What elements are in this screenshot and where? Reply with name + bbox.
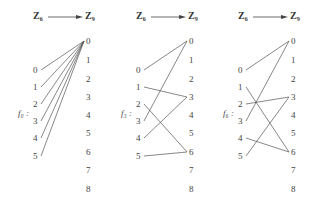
mapping-line [144,87,187,97]
mapping-line [41,41,84,121]
function-label: f₀ : [18,108,29,118]
domain-element: 4 [238,133,243,143]
codomain-element: 8 [86,184,91,194]
mapping-line [246,97,289,104]
codomain-element: 0 [291,36,296,46]
mapping-line [246,41,289,121]
domain-element: 1 [33,82,38,92]
mapping-line [246,41,289,70]
domain-element: 3 [238,116,243,126]
codomain-element: 5 [189,128,194,138]
mapping-line [144,41,187,121]
mapping-diagram-f0: Z₆Z₉012345012345678f₀ : [0,0,103,204]
function-label: f₆ : [223,108,234,118]
codomain-element: 0 [189,36,194,46]
codomain-element: 5 [86,128,91,138]
codomain-element: 3 [189,92,194,102]
domain-element: 4 [33,133,38,143]
domain-element: 2 [238,99,243,109]
codomain-element: 1 [291,55,296,65]
codomain-element: 8 [189,184,194,194]
domain-element: 5 [33,151,38,161]
codomain-element: 6 [291,147,296,157]
mapping-line [41,41,84,87]
codomain-element: 5 [291,128,296,138]
codomain-element: 2 [189,74,194,84]
mapping-line [144,104,187,152]
domain-element: 4 [136,133,141,143]
codomain-element: 7 [291,165,296,175]
mapping-line [144,152,187,156]
mapping-line [144,97,187,138]
domain-element: 0 [33,65,38,75]
domain-element: 1 [136,82,141,92]
codomain-element: 4 [86,110,91,120]
codomain-element: 2 [86,74,91,84]
codomain-element: 7 [86,165,91,175]
domain-element: 3 [33,116,38,126]
mapping-line [246,138,289,152]
mapping-line [246,87,289,152]
arrow-head-icon [76,15,83,19]
mapping-line [246,97,289,156]
domain-element: 5 [238,151,243,161]
codomain-element: 6 [86,147,91,157]
codomain-element: 6 [189,147,194,157]
mapping-line [41,41,84,104]
codomain-element: 0 [86,36,91,46]
mapping-line [41,41,84,156]
domain-element: 1 [238,82,243,92]
codomain-element: 4 [291,110,296,120]
domain-element: 2 [33,99,38,109]
arrow-head-icon [281,15,288,19]
codomain-element: 2 [291,74,296,84]
arrow-head-icon [179,15,186,19]
domain-element: 3 [136,116,141,126]
codomain-element: 4 [189,110,194,120]
codomain-element: 1 [189,55,194,65]
mapping-diagram-f6: Z₆Z₉012345012345678f₆ : [205,0,308,204]
codomain-element: 1 [86,55,91,65]
function-label: f₃ : [121,108,132,118]
codomain-element: 8 [291,184,296,194]
codomain-element: 7 [189,165,194,175]
mapping-line [144,41,187,70]
domain-element: 0 [136,65,141,75]
mapping-diagram-f3: Z₆Z₉012345012345678f₃ : [103,0,206,204]
codomain-element: 3 [291,92,296,102]
codomain-element: 3 [86,92,91,102]
domain-element: 5 [136,151,141,161]
domain-element: 0 [238,65,243,75]
domain-element: 2 [136,99,141,109]
